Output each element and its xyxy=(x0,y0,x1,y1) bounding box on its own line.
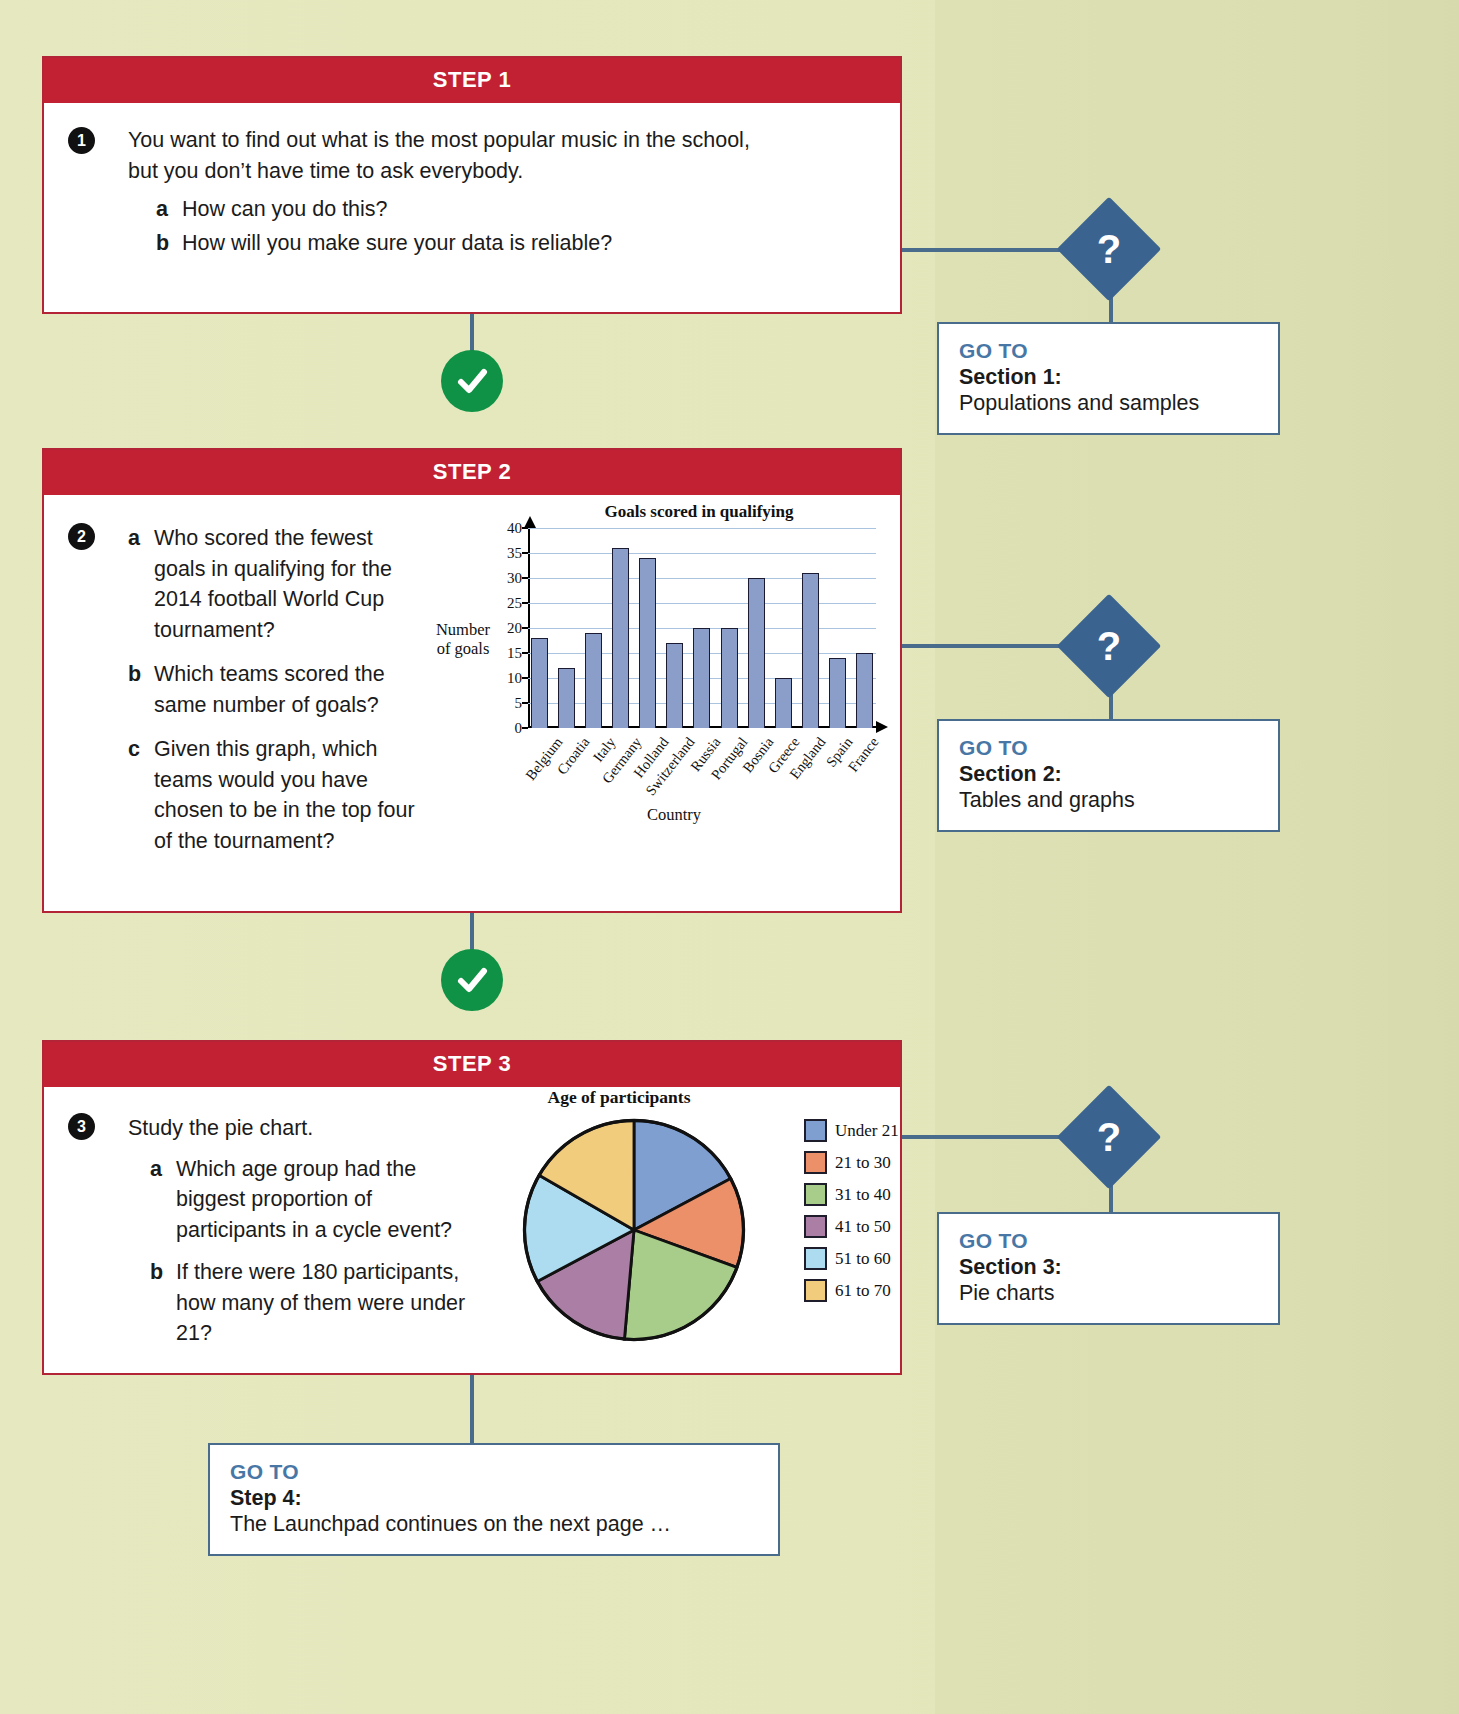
step-3-subquestions: a Which age group had the biggest propor… xyxy=(150,1154,473,1349)
step-3-card: STEP 3 3 Study the pie chart. a Which ag… xyxy=(42,1040,902,1375)
sub-letter-b: b xyxy=(150,1257,166,1349)
bar-chart-y-axis-label: Numberof goals xyxy=(424,620,502,659)
step-1-intro-line-2: but you don’t have time to ask everybody… xyxy=(128,156,874,187)
goto-box-section-1[interactable]: GO TO Section 1: Populations and samples xyxy=(937,322,1280,435)
step-2-subquestions: a Who scored the fewest goals in qualify… xyxy=(128,523,428,856)
y-axis-label-line1: Number xyxy=(436,620,490,639)
decision-diamond-1[interactable]: ? xyxy=(1072,212,1146,286)
goto-box-section-2[interactable]: GO TO Section 2: Tables and graphs xyxy=(937,719,1280,832)
sub-text-a: How can you do this? xyxy=(182,194,388,225)
goto-target: Section 2: xyxy=(959,762,1258,787)
legend-swatch xyxy=(804,1151,827,1174)
sub-text-b: Which teams scored the same number of go… xyxy=(154,659,428,720)
check-icon xyxy=(452,361,492,401)
step-2-subquestion-a: a Who scored the fewest goals in qualify… xyxy=(128,523,428,645)
x-axis-arrow-icon xyxy=(876,721,888,733)
bar xyxy=(639,558,656,728)
bar-chart-x-axis-label: Country xyxy=(544,805,804,825)
sub-text-c: Given this graph, which teams would you … xyxy=(154,734,428,856)
sub-text-a: Who scored the fewest goals in qualifyin… xyxy=(154,523,428,645)
goto-description: Tables and graphs xyxy=(959,788,1258,813)
step-1-card: STEP 1 1 You want to find out what is th… xyxy=(42,56,902,314)
step-1-subquestions: a How can you do this? b How will you ma… xyxy=(156,194,874,258)
goto-target: Section 1: xyxy=(959,365,1258,390)
legend-item: 31 to 40 xyxy=(804,1183,899,1206)
page-right-margin-band xyxy=(935,0,1459,1714)
y-tick-label: 35 xyxy=(507,545,522,562)
bar-chart-title: Goals scored in qualifying xyxy=(514,502,884,522)
goto-label: GO TO xyxy=(959,339,1258,363)
legend-swatch xyxy=(804,1183,827,1206)
bar-chart-plot-area: 0510152025303540 xyxy=(528,528,876,728)
goto-label: GO TO xyxy=(959,1229,1258,1253)
goto-description: The Launchpad continues on the next page… xyxy=(230,1512,758,1537)
goto-target: Step 4: xyxy=(230,1486,758,1511)
bar xyxy=(775,678,792,728)
y-tick-label: 40 xyxy=(507,520,522,537)
step-1-intro-line-1: You want to find out what is the most po… xyxy=(128,125,874,156)
sub-text-a: Which age group had the biggest proporti… xyxy=(176,1154,473,1246)
step-3-header: STEP 3 xyxy=(44,1042,900,1087)
goto-box-section-3[interactable]: GO TO Section 3: Pie charts xyxy=(937,1212,1280,1325)
pie-chart-legend: Under 2121 to 3031 to 4041 to 5051 to 60… xyxy=(804,1119,899,1311)
sub-letter-a: a xyxy=(128,523,144,645)
y-tick-label: 20 xyxy=(507,620,522,637)
step-2-header: STEP 2 xyxy=(44,450,900,495)
question-number-2: 2 xyxy=(68,523,95,550)
y-tick-label: 15 xyxy=(507,645,522,662)
goto-label: GO TO xyxy=(230,1460,758,1484)
question-mark-icon: ? xyxy=(1072,609,1146,683)
sub-text-b: If there were 180 participants, how many… xyxy=(176,1257,473,1349)
connector-step1-to-diamond1 xyxy=(900,248,1075,252)
step-1-body: 1 You want to find out what is the most … xyxy=(44,103,900,281)
step-1-header: STEP 1 xyxy=(44,58,900,103)
legend-item: Under 21 xyxy=(804,1119,899,1142)
y-axis-label-line2: of goals xyxy=(437,639,490,658)
legend-swatch xyxy=(804,1279,827,1302)
checkmark-badge-1 xyxy=(441,350,503,412)
connector-step3-to-goto4 xyxy=(470,1373,474,1443)
sub-letter-b: b xyxy=(156,228,172,259)
legend-item: 61 to 70 xyxy=(804,1279,899,1302)
bar xyxy=(721,628,738,728)
question-number-1: 1 xyxy=(68,127,95,154)
decision-diamond-2[interactable]: ? xyxy=(1072,609,1146,683)
legend-label: Under 21 xyxy=(835,1121,899,1141)
legend-swatch xyxy=(804,1215,827,1238)
sub-letter-b: b xyxy=(128,659,144,720)
legend-swatch xyxy=(804,1247,827,1270)
bar xyxy=(666,643,683,728)
legend-label: 41 to 50 xyxy=(835,1217,891,1237)
sub-letter-a: a xyxy=(150,1154,166,1246)
sub-letter-c: c xyxy=(128,734,144,856)
step-3-intro: Study the pie chart. xyxy=(128,1113,473,1144)
step-2-subquestion-c: c Given this graph, which teams would yo… xyxy=(128,734,428,856)
step-2-card: STEP 2 2 a Who scored the fewest goals i… xyxy=(42,448,902,913)
bar-chart-x-tick-labels: BelgiumCroatiaItalyGermanyHollandSwitzer… xyxy=(528,730,876,802)
bar xyxy=(829,658,846,728)
goto-description: Pie charts xyxy=(959,1281,1258,1306)
legend-label: 31 to 40 xyxy=(835,1185,891,1205)
y-tick-label: 30 xyxy=(507,570,522,587)
bar-series xyxy=(528,528,876,728)
goto-label: GO TO xyxy=(959,736,1258,760)
bar xyxy=(585,633,602,728)
decision-diamond-3[interactable]: ? xyxy=(1072,1100,1146,1174)
legend-item: 51 to 60 xyxy=(804,1247,899,1270)
legend-swatch xyxy=(804,1119,827,1142)
connector-step2-to-diamond2 xyxy=(900,644,1075,648)
question-mark-icon: ? xyxy=(1072,212,1146,286)
goto-box-step-4[interactable]: GO TO Step 4: The Launchpad continues on… xyxy=(208,1443,780,1556)
check-icon xyxy=(452,960,492,1000)
goto-description: Populations and samples xyxy=(959,391,1258,416)
step-2-body: 2 a Who scored the fewest goals in quali… xyxy=(44,495,900,879)
bar xyxy=(558,668,575,728)
step-3-body: 3 Study the pie chart. a Which age group… xyxy=(44,1087,900,1372)
step-3-subquestion-a: a Which age group had the biggest propor… xyxy=(150,1154,473,1246)
pie-chart-graphic xyxy=(519,1115,749,1345)
checkmark-badge-2 xyxy=(441,949,503,1011)
legend-item: 41 to 50 xyxy=(804,1215,899,1238)
bar xyxy=(693,628,710,728)
legend-item: 21 to 30 xyxy=(804,1151,899,1174)
goto-target: Section 3: xyxy=(959,1255,1258,1280)
